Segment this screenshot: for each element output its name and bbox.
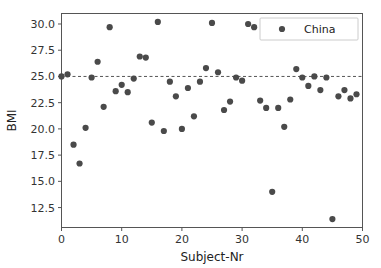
- data-point: [155, 19, 161, 25]
- data-point: [64, 71, 70, 77]
- data-point: [239, 78, 245, 84]
- x-tick-label: 40: [295, 233, 309, 246]
- data-point: [76, 160, 82, 166]
- x-tick-label: 10: [115, 233, 129, 246]
- data-point: [209, 20, 215, 26]
- data-point: [173, 93, 179, 99]
- data-point: [137, 53, 143, 59]
- y-tick-label: 12.5: [31, 202, 56, 215]
- data-point: [149, 119, 155, 125]
- y-tick-label: 17.5: [31, 149, 56, 162]
- y-tick-label: 20.0: [31, 123, 56, 136]
- data-point: [113, 88, 119, 94]
- data-point: [131, 75, 137, 81]
- data-point: [251, 24, 257, 30]
- data-point: [293, 66, 299, 72]
- data-point: [281, 124, 287, 130]
- data-point: [221, 107, 227, 113]
- data-point: [70, 142, 76, 148]
- data-point: [89, 74, 95, 80]
- y-tick-label: 30.0: [31, 18, 56, 31]
- chart-canvas: 01020304050 12.515.017.520.022.525.027.5…: [0, 0, 381, 268]
- data-point: [353, 91, 359, 97]
- data-point: [125, 89, 131, 95]
- data-point: [119, 82, 125, 88]
- x-tick-label: 0: [58, 233, 65, 246]
- x-tick-label: 30: [235, 233, 249, 246]
- x-tick-label: 20: [175, 233, 189, 246]
- data-point: [263, 105, 269, 111]
- data-point: [323, 74, 329, 80]
- data-point: [341, 87, 347, 93]
- data-point: [197, 79, 203, 85]
- data-point: [191, 113, 197, 119]
- data-point: [305, 83, 311, 89]
- data-point: [215, 69, 221, 75]
- data-point: [335, 93, 341, 99]
- data-point: [58, 73, 64, 79]
- y-tick-label: 25.0: [31, 70, 56, 83]
- data-point: [185, 85, 191, 91]
- data-point: [101, 104, 107, 110]
- data-point: [203, 65, 209, 71]
- scatter-chart-figure: 01020304050 12.515.017.520.022.525.027.5…: [0, 0, 381, 268]
- data-point: [275, 105, 281, 111]
- data-point: [299, 74, 305, 80]
- y-axis-title: BMI: [5, 109, 19, 131]
- data-point: [245, 21, 251, 27]
- data-point: [82, 125, 88, 131]
- data-point: [311, 73, 317, 79]
- data-point: [329, 216, 335, 222]
- data-point: [161, 128, 167, 134]
- chart-legend[interactable]: China: [260, 18, 358, 40]
- data-point: [95, 59, 101, 65]
- x-tick-label: 50: [356, 233, 370, 246]
- data-point: [179, 126, 185, 132]
- legend-marker-icon: [279, 26, 285, 32]
- data-point: [143, 54, 149, 60]
- data-point: [167, 79, 173, 85]
- data-point: [257, 97, 263, 103]
- x-axis-title: Subject-Nr: [180, 250, 243, 264]
- data-point: [269, 189, 275, 195]
- data-point: [107, 24, 113, 30]
- data-point: [233, 74, 239, 80]
- legend-label: China: [304, 23, 335, 36]
- y-tick-label: 27.5: [31, 44, 56, 57]
- data-point: [347, 95, 353, 101]
- y-tick-label: 22.5: [31, 97, 56, 110]
- data-point: [317, 87, 323, 93]
- data-point: [227, 99, 233, 105]
- y-tick-label: 15.0: [31, 175, 56, 188]
- data-point: [287, 96, 293, 102]
